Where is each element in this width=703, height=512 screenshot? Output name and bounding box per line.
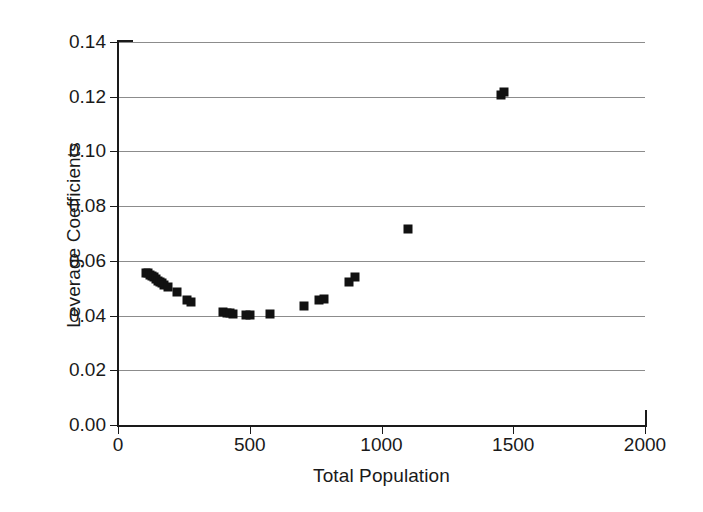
y-tick-label: 0.08: [69, 195, 106, 217]
y-tick-label: 0.00: [69, 414, 106, 436]
gridline-y: [118, 151, 645, 152]
data-point: [351, 272, 360, 281]
x-tick-label: 0: [113, 434, 124, 456]
data-point: [245, 311, 254, 320]
gridline-y: [118, 370, 645, 371]
y-tick-label: 0.12: [69, 86, 106, 108]
data-point: [499, 87, 508, 96]
y-tick-label: 0.14: [69, 31, 106, 53]
data-point: [403, 225, 412, 234]
gridline-y: [118, 206, 645, 207]
y-tick-label: 0.02: [69, 359, 106, 381]
x-tick-label: 1000: [360, 434, 402, 456]
gridline-y: [118, 316, 645, 317]
plot-area: 0.000.020.040.060.080.100.120.14 0500100…: [118, 42, 645, 425]
y-tick-label: 0.10: [69, 140, 106, 162]
data-point: [299, 301, 308, 310]
x-tick-label: 500: [234, 434, 266, 456]
data-point: [265, 310, 274, 319]
data-point: [186, 298, 195, 307]
x-tick-label: 2000: [624, 434, 666, 456]
y-axis-top-cap: [117, 40, 133, 42]
data-point: [173, 288, 182, 297]
data-point: [319, 294, 328, 303]
data-point: [164, 282, 173, 291]
x-axis-title: Total Population: [118, 465, 645, 487]
gridline-y: [118, 261, 645, 262]
y-tick-label: 0.04: [69, 305, 106, 327]
x-axis-right-cap: [645, 410, 647, 427]
y-tick-label: 0.06: [69, 250, 106, 272]
data-point: [229, 309, 238, 318]
gridline-y: [118, 97, 645, 98]
x-axis-line: [117, 425, 646, 427]
y-axis-line: [117, 40, 119, 427]
x-tick-label: 1500: [492, 434, 534, 456]
scatter-chart-figure: Leverage Coefficients Total Population 0…: [0, 0, 703, 512]
gridline-y: [118, 42, 645, 43]
